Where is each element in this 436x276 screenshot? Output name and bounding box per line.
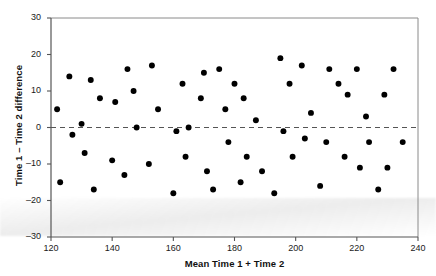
data-point xyxy=(97,95,103,101)
data-point xyxy=(232,81,238,87)
data-point xyxy=(280,128,286,134)
data-point xyxy=(287,81,293,87)
data-point xyxy=(336,81,342,87)
data-point xyxy=(277,55,283,61)
x-axis-tick-label: 140 xyxy=(96,243,128,253)
data-point xyxy=(290,154,296,160)
data-point xyxy=(82,150,88,156)
data-point xyxy=(302,135,308,141)
data-point xyxy=(149,62,155,68)
x-axis-tick-label: 240 xyxy=(402,243,434,253)
data-point xyxy=(91,187,97,193)
data-point xyxy=(124,66,130,72)
data-point xyxy=(180,81,186,87)
data-point xyxy=(222,106,228,112)
data-point xyxy=(366,139,372,145)
data-point xyxy=(244,154,250,160)
data-point xyxy=(271,190,277,196)
data-point xyxy=(69,132,75,138)
data-point xyxy=(131,88,137,94)
data-point xyxy=(354,66,360,72)
x-axis-tick-label: 220 xyxy=(341,243,373,253)
y-axis-tick-label: –10 xyxy=(15,158,41,168)
data-point xyxy=(146,161,152,167)
data-point xyxy=(109,157,115,163)
data-point xyxy=(400,139,406,145)
data-point xyxy=(88,77,94,83)
data-point xyxy=(381,92,387,98)
data-point xyxy=(57,179,63,185)
data-point xyxy=(186,125,192,131)
data-point xyxy=(121,172,127,178)
y-axis-tick-label: 20 xyxy=(15,49,41,59)
data-point xyxy=(198,95,204,101)
plot-area xyxy=(0,0,436,276)
x-axis-tick-label: 160 xyxy=(157,243,189,253)
data-point xyxy=(241,95,247,101)
data-point xyxy=(54,106,60,112)
data-point xyxy=(225,139,231,145)
data-point xyxy=(201,70,207,76)
x-axis-tick-label: 120 xyxy=(35,243,67,253)
data-point xyxy=(323,139,329,145)
data-point xyxy=(170,190,176,196)
y-axis-tick-label: –30 xyxy=(15,231,41,241)
data-point xyxy=(375,187,381,193)
y-axis-tick-label: 10 xyxy=(15,85,41,95)
x-axis-tick-label: 200 xyxy=(280,243,312,253)
y-axis-tick-label: 0 xyxy=(15,122,41,132)
data-point xyxy=(66,73,72,79)
data-point xyxy=(183,154,189,160)
data-point xyxy=(259,168,265,174)
data-point xyxy=(216,66,222,72)
data-point xyxy=(357,165,363,171)
scatter-chart: Time 1 – Time 2 difference Mean Time 1 +… xyxy=(0,0,436,276)
data-point xyxy=(342,154,348,160)
data-point xyxy=(253,117,259,123)
y-axis-tick-label: 30 xyxy=(15,12,41,22)
data-point xyxy=(384,165,390,171)
data-point xyxy=(155,106,161,112)
data-point xyxy=(363,114,369,120)
data-point xyxy=(173,128,179,134)
data-point xyxy=(79,121,85,127)
x-axis-tick-label: 180 xyxy=(219,243,251,253)
data-point xyxy=(299,62,305,68)
data-point xyxy=(112,99,118,105)
data-point xyxy=(317,183,323,189)
data-point xyxy=(391,66,397,72)
data-point xyxy=(204,168,210,174)
data-point xyxy=(134,125,140,131)
data-point xyxy=(345,92,351,98)
data-point xyxy=(308,110,314,116)
y-axis-tick-label: –20 xyxy=(15,195,41,205)
data-point xyxy=(210,187,216,193)
data-point xyxy=(326,66,332,72)
data-point xyxy=(238,179,244,185)
